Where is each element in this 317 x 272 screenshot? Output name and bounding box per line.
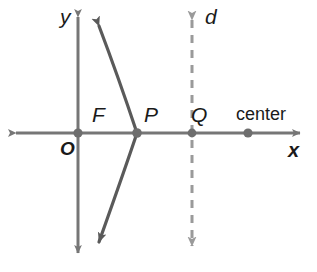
x-axis-label: x: [288, 140, 299, 160]
origin-label: O: [60, 139, 75, 158]
y-axis-label: y: [60, 6, 71, 27]
vertex-label: P: [144, 104, 158, 125]
point-q-dot: [188, 129, 197, 138]
directrix-label: d: [205, 6, 217, 27]
q-point-label: Q: [191, 104, 207, 125]
point-vertex-p-dot: [132, 128, 142, 138]
parabola-diagram: y d F P Q O x center: [0, 0, 317, 272]
diagram-canvas: [0, 0, 317, 272]
point-center-dot: [243, 128, 252, 137]
center-label: center: [236, 105, 286, 123]
focus-label: F: [92, 104, 105, 125]
point-origin-dot: [73, 128, 82, 137]
